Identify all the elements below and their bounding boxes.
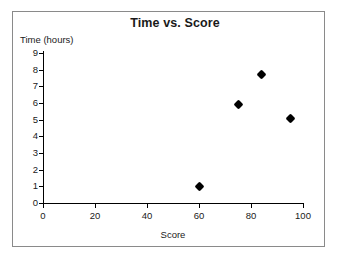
data-point-marker bbox=[233, 100, 243, 110]
y-tick-label: 7 bbox=[20, 81, 38, 91]
x-tick-label: 40 bbox=[132, 210, 162, 221]
x-axis-line bbox=[43, 203, 304, 204]
x-tick-label: 80 bbox=[236, 210, 266, 221]
x-tick-label: 20 bbox=[80, 210, 110, 221]
chart-title: Time vs. Score bbox=[40, 16, 310, 30]
x-tick-label: 100 bbox=[288, 210, 318, 221]
data-point-marker bbox=[194, 181, 204, 191]
x-tick-mark bbox=[199, 203, 200, 208]
data-point-marker bbox=[285, 113, 295, 123]
y-axis-label: Time (hours) bbox=[20, 34, 74, 45]
y-tick-label: 8 bbox=[20, 65, 38, 75]
y-tick-label: 9 bbox=[20, 48, 38, 58]
x-tick-mark bbox=[251, 203, 252, 208]
chart-figure: Time vs. Score Time (hours) 0123456789 0… bbox=[0, 0, 337, 258]
data-point-marker bbox=[256, 70, 266, 80]
x-tick-mark bbox=[147, 203, 148, 208]
y-tick-label: 3 bbox=[20, 148, 38, 158]
x-tick-mark bbox=[43, 203, 44, 208]
x-tick-mark bbox=[95, 203, 96, 208]
y-tick-label: 1 bbox=[20, 181, 38, 191]
x-tick-label: 0 bbox=[28, 210, 58, 221]
plot-area bbox=[43, 53, 303, 203]
y-tick-label: 5 bbox=[20, 115, 38, 125]
y-tick-label: 4 bbox=[20, 131, 38, 141]
y-tick-label: 2 bbox=[20, 165, 38, 175]
y-tick-label: 6 bbox=[20, 98, 38, 108]
x-tick-label: 60 bbox=[184, 210, 214, 221]
x-axis-label: Score bbox=[43, 229, 303, 240]
x-tick-mark bbox=[303, 203, 304, 208]
y-tick-label: 0 bbox=[20, 198, 38, 208]
